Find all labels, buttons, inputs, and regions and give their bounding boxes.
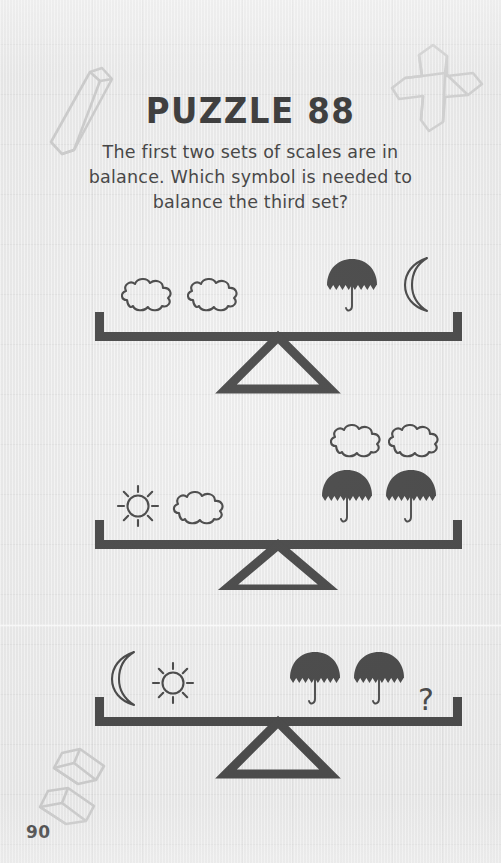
- scale-3: ?: [0, 640, 501, 785]
- umbrella-symbol: [354, 652, 404, 703]
- scale-2-right-pan: [322, 425, 437, 521]
- umbrella-symbol: [290, 652, 340, 703]
- umbrella-symbol: [322, 470, 372, 521]
- umbrella-symbol: [327, 259, 377, 310]
- cloud-symbol: [174, 492, 223, 523]
- cloud-symbol: [122, 279, 171, 310]
- cloud-symbol: [389, 425, 438, 456]
- cloud-symbol: [188, 279, 237, 310]
- sun-symbol: [118, 486, 158, 526]
- scale-1-right-pan: [327, 258, 427, 311]
- scale-1: [0, 255, 501, 400]
- scale-3-fulcrum: [226, 722, 330, 774]
- page-number: 90: [26, 822, 51, 842]
- question-mark: ?: [418, 682, 434, 717]
- puzzle-header: PUZZLE 88 The first two sets of scales a…: [0, 94, 501, 215]
- scale-2-left-pan: [118, 486, 222, 526]
- scale-3-left-pan: [112, 652, 193, 705]
- cloud-symbol: [331, 425, 380, 456]
- sun-symbol: [153, 663, 193, 703]
- puzzle-instructions: The first two sets of scales are in bala…: [86, 140, 416, 215]
- umbrella-symbol: [386, 470, 436, 521]
- scale-1-fulcrum: [226, 337, 330, 389]
- moon-symbol: [405, 258, 427, 311]
- scale-2-fulcrum: [226, 545, 330, 589]
- scale-2: [0, 420, 501, 590]
- page-title: PUZZLE 88: [18, 94, 484, 129]
- moon-symbol: [112, 652, 134, 705]
- scale-3-right-pan: ?: [290, 652, 434, 717]
- scale-1-left-pan: [122, 279, 237, 310]
